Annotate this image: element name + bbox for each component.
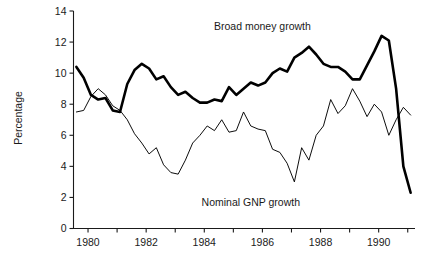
chart-container: Percentage 02468101214 19801982198419861… [0, 0, 436, 275]
y-tick-label: 4 [61, 160, 67, 172]
y-axis-title: Percentage [12, 91, 24, 145]
x-tick-label: 1980 [76, 236, 100, 248]
y-tick-label: 6 [61, 129, 67, 141]
y-tick-label: 14 [55, 5, 67, 17]
series-line-nominal-gnp-growth [76, 89, 410, 182]
series-annotation-0: Broad money growth [214, 20, 311, 32]
x-axis-ticks: 198019821984198619881990 [76, 229, 407, 248]
x-tick-label: 1982 [134, 236, 158, 248]
series-group [76, 36, 410, 193]
y-tick-label: 12 [55, 36, 67, 48]
y-axis-ticks: 02468101214 [55, 5, 74, 235]
y-tick-label: 0 [61, 222, 67, 234]
x-tick-label: 1990 [367, 236, 391, 248]
y-tick-label: 8 [61, 98, 67, 110]
y-tick-label: 10 [55, 67, 67, 79]
x-tick-label: 1988 [309, 236, 333, 248]
line-chart: Percentage 02468101214 19801982198419861… [0, 0, 436, 275]
series-line-broad-money-growth [76, 36, 410, 193]
x-tick-label: 1984 [193, 236, 217, 248]
y-axis-title-group: Percentage [12, 91, 24, 145]
series-annotation-1: Nominal GNP growth [202, 196, 301, 208]
y-tick-label: 2 [61, 191, 67, 203]
x-tick-label: 1986 [251, 236, 275, 248]
